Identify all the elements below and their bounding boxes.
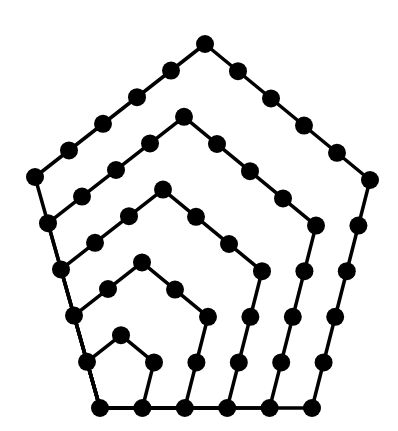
dot: [187, 353, 205, 371]
dot: [162, 62, 180, 80]
dot: [274, 189, 292, 207]
dot: [262, 89, 280, 107]
dot: [86, 234, 104, 252]
pentagonal-number-diagram: [0, 0, 398, 431]
dot: [199, 308, 217, 326]
dot: [175, 108, 193, 126]
dot: [261, 399, 279, 417]
dot: [272, 353, 290, 371]
dot: [328, 144, 346, 162]
dot: [154, 181, 172, 199]
dot: [94, 115, 112, 133]
dot: [60, 141, 78, 159]
dot: [307, 217, 325, 235]
dot: [133, 253, 151, 271]
dot: [196, 35, 214, 53]
dot: [229, 62, 247, 80]
dot: [253, 262, 271, 280]
dot: [26, 168, 44, 186]
dot: [241, 162, 259, 180]
dot: [91, 399, 109, 417]
dot: [241, 308, 259, 326]
dot: [133, 399, 151, 417]
dot: [65, 307, 83, 325]
dot: [230, 353, 248, 371]
dot: [128, 88, 146, 106]
dot: [166, 281, 184, 299]
dot: [208, 135, 226, 153]
dot: [295, 262, 313, 280]
dot: [176, 399, 194, 417]
dot: [52, 260, 70, 278]
dot: [295, 117, 313, 135]
dot: [303, 399, 321, 417]
dot: [120, 207, 138, 225]
dot: [361, 171, 379, 189]
dot: [112, 326, 130, 344]
dot: [349, 217, 367, 235]
pentagon-dots: [26, 35, 379, 417]
dot: [73, 188, 91, 206]
dot: [220, 235, 238, 253]
dot: [218, 399, 236, 417]
dot: [78, 353, 96, 371]
dot: [338, 262, 356, 280]
dot: [284, 308, 302, 326]
dot: [326, 308, 344, 326]
dot: [39, 214, 57, 232]
dot: [107, 161, 125, 179]
dot: [141, 134, 159, 152]
dot: [145, 353, 163, 371]
dot: [315, 353, 333, 371]
dot: [99, 280, 117, 298]
dot: [187, 208, 205, 226]
